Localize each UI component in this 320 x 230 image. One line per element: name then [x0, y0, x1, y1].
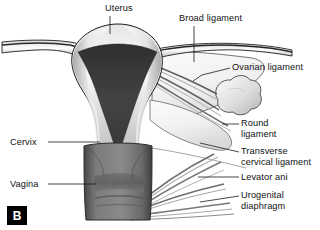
label-vagina: Vagina [10, 179, 39, 190]
leader-urogenital-diaphragm [200, 196, 239, 202]
label-round-ligament: Roundligament [241, 118, 277, 139]
vaginal-canal [84, 143, 152, 220]
ovary [216, 76, 262, 115]
label-ovarian-ligament: Ovarian ligament [232, 62, 303, 73]
label-levator-ani: Levator ani [241, 172, 288, 183]
anatomical-figure-panel: Uterus Broad ligament Ovarian ligament R… [0, 0, 320, 230]
label-transverse-cervical-ligament-line2: cervical ligament [241, 157, 311, 167]
label-broad-ligament: Broad ligament [179, 13, 242, 24]
label-round-ligament-line2: ligament [241, 129, 277, 139]
panel-tag-b: B [7, 206, 27, 225]
label-round-ligament-line1: Round [241, 118, 269, 128]
label-urogenital-diaphragm-line2: diaphragm [241, 201, 285, 211]
label-urogenital-diaphragm-line1: Urogenital [241, 190, 284, 200]
label-cervix: Cervix [10, 137, 37, 148]
label-transverse-cervical-ligament: Transversecervical ligament [241, 146, 311, 167]
label-uterus: Uterus [105, 3, 133, 14]
label-transverse-cervical-ligament-line1: Transverse [241, 146, 288, 156]
label-urogenital-diaphragm: Urogenitaldiaphragm [241, 190, 285, 211]
